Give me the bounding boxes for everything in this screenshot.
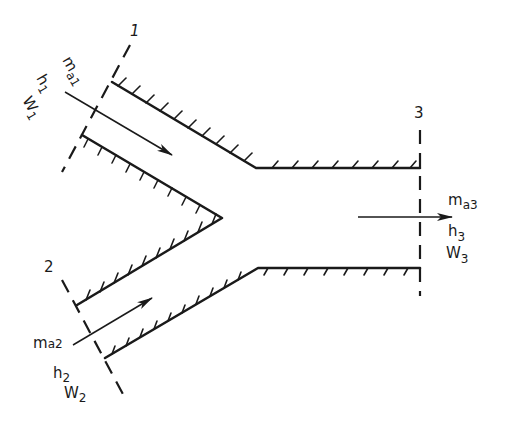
section-label-1: 1 — [130, 22, 140, 40]
inlet-2-mass-flow: ma2 — [33, 334, 63, 352]
outlet-3-mass-flow: ma3 — [448, 191, 478, 212]
mixing-duct-diagram: 1 2 3 ma1 h1 W1 ma2 h2 W2 ma3 h3 W3 — [0, 0, 505, 429]
inner-divider-wall — [77, 135, 222, 305]
lower-outer-wall — [105, 268, 420, 358]
inlet-2-humidity-ratio: W2 — [64, 384, 86, 405]
section-line-2 — [62, 280, 125, 398]
inlet-1-humidity-labels: W1 — [16, 93, 45, 123]
inlet-1-flow-arrow — [65, 92, 172, 155]
outlet-3-humidity-ratio: W3 — [446, 244, 468, 266]
inlet-1-humidity-ratio: W1 — [16, 93, 45, 123]
section-label-2: 2 — [44, 258, 54, 276]
inlet-1-labels: ma1 — [56, 53, 89, 89]
upper-outer-wall — [112, 78, 420, 168]
inlet-1-mass-flow: ma1 — [56, 53, 89, 89]
section-label-3: 3 — [414, 104, 424, 122]
outlet-3-enthalpy: h3 — [448, 222, 465, 244]
inlet-2-enthalpy: h2 — [53, 364, 70, 385]
